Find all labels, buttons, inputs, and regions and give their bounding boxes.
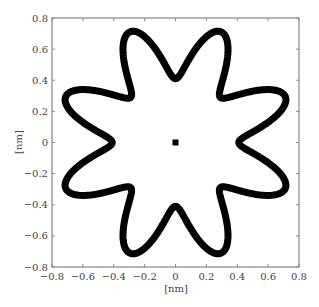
y-tick-label: −0.4 — [24, 199, 48, 210]
center-marker — [173, 140, 179, 146]
x-axis-ticks: −0.8−0.6−0.4−0.200.20.40.60.8 — [40, 18, 307, 282]
x-tick-label: 0 — [172, 271, 178, 282]
y-tick-label: 0.4 — [32, 75, 48, 86]
x-tick-label: 0.8 — [291, 271, 307, 282]
y-tick-label: −0.8 — [24, 262, 48, 273]
x-tick-label: −0.4 — [102, 271, 126, 282]
plot-area — [65, 31, 286, 254]
y-tick-label: 0 — [42, 137, 48, 148]
x-tick-label: −0.6 — [71, 271, 95, 282]
y-axis-label: [nm] — [13, 130, 24, 154]
y-tick-label: −0.6 — [24, 230, 48, 241]
x-tick-label: 0.2 — [198, 271, 214, 282]
x-tick-label: −0.2 — [132, 271, 156, 282]
y-tick-label: 0.8 — [32, 13, 48, 24]
y-axis-ticks: −0.8−0.6−0.4−0.200.20.40.60.8 — [24, 13, 299, 273]
y-tick-label: −0.2 — [24, 168, 48, 179]
y-tick-label: 0.2 — [32, 106, 48, 117]
x-axis-label: [nm] — [164, 283, 188, 294]
y-tick-label: 0.6 — [32, 44, 48, 55]
x-tick-label: 0.6 — [260, 271, 276, 282]
star-contour-plot: −0.8−0.6−0.4−0.200.20.40.60.8 −0.8−0.6−0… — [0, 0, 319, 307]
x-tick-label: −0.8 — [40, 271, 64, 282]
x-tick-label: 0.4 — [229, 271, 245, 282]
